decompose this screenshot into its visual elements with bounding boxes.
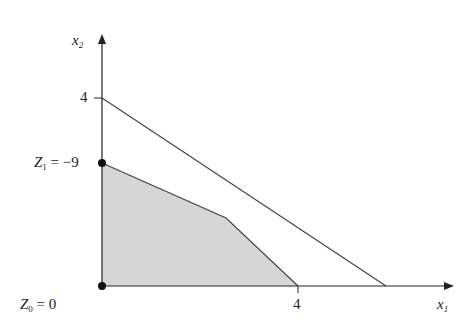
feasible-region bbox=[102, 163, 298, 286]
y-axis-arrow-icon bbox=[98, 34, 106, 44]
point-z1 bbox=[98, 159, 106, 167]
point-z0 bbox=[98, 282, 106, 290]
y-axis-label: x2 bbox=[72, 32, 83, 50]
z1-label: Z1 = −9 bbox=[34, 154, 79, 172]
y-tick-label: 4 bbox=[80, 89, 88, 106]
x-tick-label: 4 bbox=[293, 296, 301, 313]
x-axis-arrow-icon bbox=[444, 282, 454, 290]
x-axis-label: x1 bbox=[437, 296, 448, 314]
z0-label: Z0 = 0 bbox=[20, 296, 56, 314]
